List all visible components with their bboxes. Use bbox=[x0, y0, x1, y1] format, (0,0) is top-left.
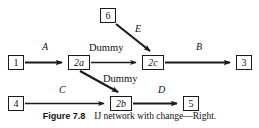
node-2b[interactable]: 2b bbox=[110, 96, 132, 111]
edge-label-dummy-upper: Dummy bbox=[89, 43, 123, 54]
figure-container: 1 2a 2c 3 6 4 2b 5 A Dummy B E Dummy C D… bbox=[0, 0, 259, 128]
node-5-label: 5 bbox=[189, 98, 194, 108]
node-3-label: 3 bbox=[242, 57, 247, 67]
node-2a-label: 2a bbox=[74, 57, 84, 67]
edge-label-b: B bbox=[196, 42, 202, 52]
node-6[interactable]: 6 bbox=[100, 8, 116, 23]
edge-label-d: D bbox=[158, 85, 165, 95]
node-2c-label: 2c bbox=[148, 57, 157, 67]
edge-label-a: A bbox=[42, 42, 48, 52]
node-2c[interactable]: 2c bbox=[142, 55, 164, 70]
node-4[interactable]: 4 bbox=[8, 96, 24, 111]
node-5[interactable]: 5 bbox=[183, 96, 199, 111]
node-1-label: 1 bbox=[14, 57, 19, 67]
node-4-label: 4 bbox=[14, 98, 19, 108]
figure-caption-text: IJ network with change—Right. bbox=[94, 111, 216, 121]
node-3[interactable]: 3 bbox=[236, 55, 252, 70]
node-2b-label: 2b bbox=[116, 98, 126, 108]
edge-label-e: E bbox=[135, 24, 141, 34]
node-2a[interactable]: 2a bbox=[68, 55, 90, 70]
figure-caption-label: Figure 7.8 bbox=[43, 111, 86, 121]
figure-caption: Figure 7.8IJ network with change—Right. bbox=[0, 111, 259, 122]
node-6-label: 6 bbox=[106, 10, 111, 20]
node-1[interactable]: 1 bbox=[8, 55, 24, 70]
edge-label-c: C bbox=[59, 85, 66, 95]
edge-label-dummy-lower: Dummy bbox=[103, 74, 137, 85]
